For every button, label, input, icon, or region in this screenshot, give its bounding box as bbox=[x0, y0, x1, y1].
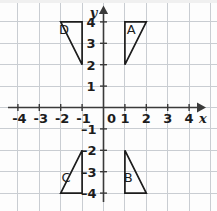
y-tick-label: 1 bbox=[86, 79, 95, 94]
triangle-label-b: B bbox=[124, 170, 133, 185]
x-tick-label: 1 bbox=[120, 111, 129, 126]
triangle-label-a: A bbox=[127, 22, 136, 37]
y-tick-label: 3 bbox=[86, 36, 95, 51]
y-tick-label: –4 bbox=[81, 186, 97, 201]
x-tick-label: 4 bbox=[185, 111, 194, 126]
origin-label: 0 bbox=[107, 111, 116, 126]
triangle-label-d: D bbox=[59, 22, 69, 37]
x-axis-name: x bbox=[198, 111, 207, 126]
x-tick-label: -2 bbox=[55, 111, 69, 126]
y-axis-arrow bbox=[99, 6, 108, 15]
axes bbox=[8, 6, 206, 203]
x-tick-label: -3 bbox=[34, 111, 48, 126]
y-tick-label: 2 bbox=[86, 58, 95, 73]
image-top-border bbox=[0, 0, 217, 3]
grid-lines bbox=[0, 0, 217, 211]
y-tick-label: –1 bbox=[81, 122, 97, 137]
y-axis-name: y bbox=[89, 5, 99, 20]
triangle-label-c: C bbox=[62, 170, 71, 185]
y-tick-label: –3 bbox=[81, 165, 97, 180]
coordinate-plane-figure: ABCD -4-3-2-1123401234–1–2–3–4xy bbox=[0, 0, 217, 211]
coordinate-plane-svg: ABCD -4-3-2-1123401234–1–2–3–4xy bbox=[0, 0, 217, 211]
x-tick-label: -4 bbox=[12, 111, 26, 126]
x-tick-label: 3 bbox=[163, 111, 172, 126]
y-tick-label: –2 bbox=[81, 143, 97, 158]
x-tick-label: 2 bbox=[142, 111, 151, 126]
